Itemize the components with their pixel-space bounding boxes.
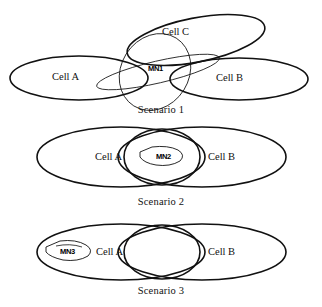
scenario-2-caption: Scenario 2 <box>0 196 322 207</box>
scenario-1-cell-c-ellipse <box>123 5 269 75</box>
scenario-1-cell-b-label: Cell B <box>216 72 243 83</box>
scenario-1-caption: Scenario 1 <box>0 104 322 115</box>
scenario-3-cell-a-label: Cell A <box>96 246 123 257</box>
scenario-2-cell-b-label: Cell B <box>208 151 235 162</box>
scenario-3-cell-b-ellipse <box>118 224 286 280</box>
scenario-1-cell-c-label: Cell C <box>162 26 189 37</box>
scenario-2-cell-a-label: Cell A <box>95 151 122 162</box>
scenario-3-cell-b-label: Cell B <box>208 246 235 257</box>
scenario-1-cell-a-label: Cell A <box>52 71 79 82</box>
scenarios-figure: Cell A Cell B Cell C MN1 Scenario 1 Cell… <box>0 0 322 307</box>
scenario-3-caption: Scenario 3 <box>0 285 322 296</box>
scenario-2-cell-b-ellipse <box>118 127 286 187</box>
scenario-2-mn2-label: MN2 <box>156 152 171 161</box>
scenario-1-mn1-label: MN1 <box>148 64 163 73</box>
scenario-3-mn3-label: MN3 <box>60 247 75 256</box>
scenario-3-overlap-ellipse <box>124 225 200 279</box>
